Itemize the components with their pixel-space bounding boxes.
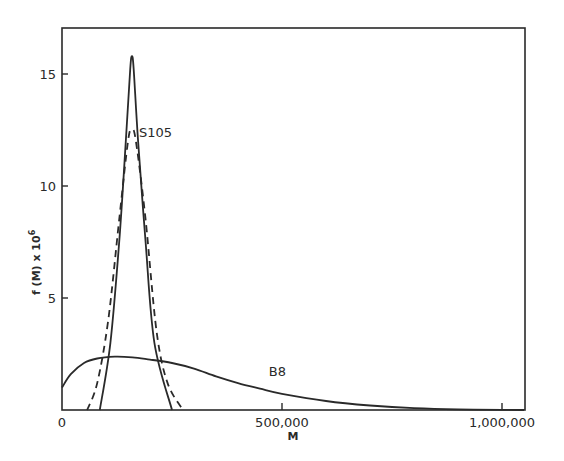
y-tick-label: 10 (39, 179, 56, 194)
series-label-b8: B8 (269, 364, 286, 379)
x-tick-label: 500,000 (255, 415, 309, 430)
series-line-s105-dashed (87, 130, 183, 410)
series-line-b8 (62, 357, 524, 410)
x-axis-ticks: 0500,0001,000,000 (58, 403, 535, 430)
x-axis-title: M (288, 430, 299, 443)
series-label-s105: S105 (139, 125, 172, 140)
y-tick-label: 5 (48, 291, 56, 306)
y-axis-title: f (M) x 106 (28, 229, 43, 295)
y-tick-label: 15 (39, 67, 56, 82)
plot-frame (62, 28, 525, 410)
chart: 51015 0500,0001,000,000 S105B8 M f (M) x… (0, 0, 564, 461)
series-layer (62, 56, 524, 410)
y-axis-ticks: 51015 (39, 67, 68, 306)
x-tick-label: 0 (58, 415, 66, 430)
annotations: S105B8 (139, 125, 286, 380)
x-tick-label: 1,000,000 (469, 415, 535, 430)
